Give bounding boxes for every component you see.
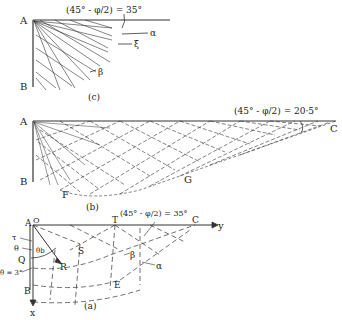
angle-label-a: (45° - φ/2) = 35° [120,209,188,218]
label-b-c: B [20,81,27,92]
caption-a: (a) [84,301,96,311]
label-c-b: C [330,123,338,134]
label-c-a: C [192,215,199,225]
label-q: Q [18,255,25,265]
x-axis-arrow-icon [30,300,36,306]
figure-c [33,14,170,90]
alpha-label-c: α [150,28,156,38]
label-alpha-a: α [156,261,162,271]
label-a-b: A [19,116,28,127]
caption-b: (b) [86,202,99,212]
angle-label-b: (45° - φ/2) = 20·5° [234,106,319,116]
label-b-b: B [20,176,27,187]
label-s: S [78,246,84,256]
alpha-leader-c [122,33,148,34]
alpha-leader-a [142,262,155,265]
angle-leader-a [144,222,155,236]
caption-c: (c) [88,92,100,102]
label-t: T [112,215,118,225]
angle-label-c: (45° - φ/2) = 35° [66,5,142,15]
label-x: x [30,308,35,318]
beta-label-c: β [98,67,103,77]
xi-label-c: ξ̄ [134,39,139,49]
label-o: O [33,216,40,225]
label-a-c: A [19,15,28,26]
label-a-a: A [24,218,32,228]
label-e: E [114,280,121,290]
label-b-a: B [24,286,31,296]
label-theta-3: θ = 3° [0,269,22,277]
label-theta: θ [14,244,19,253]
label-beta-a: β [130,250,135,260]
figure-a [20,222,218,306]
slip-line-diagrams: A B (45° - φ/2) = 35° α ξ̄ β (c) [0,0,342,320]
label-r: R [60,262,67,272]
angle-arc-b [300,121,303,133]
angle-arc-c [122,14,125,28]
label-theta-b: θb [36,247,45,255]
label-g-b: G [184,174,192,185]
ray-or [33,225,60,262]
label-tau: τ [12,233,17,242]
label-f-b: F [62,189,69,200]
boundary-fgc [60,121,336,196]
label-y: y [217,220,224,231]
